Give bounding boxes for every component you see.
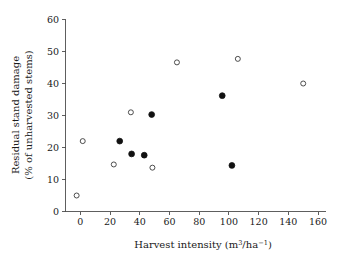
y-tick-label: 20 xyxy=(47,142,59,153)
data-point-open xyxy=(301,81,306,86)
x-axis-title-mid: /ha xyxy=(242,239,258,250)
data-point-filled xyxy=(141,152,147,158)
y-axis-title-line2: (% of unharvested stems) xyxy=(23,50,34,179)
data-point-filled xyxy=(129,151,135,157)
y-tick-label: 60 xyxy=(47,14,59,25)
x-tick-label: 140 xyxy=(279,216,297,227)
y-axis-ticks: 0102030405060 xyxy=(47,14,66,217)
x-tick-label: 80 xyxy=(193,216,205,227)
data-point-filled xyxy=(149,112,155,118)
x-tick-label: 0 xyxy=(77,216,83,227)
y-tick-label: 10 xyxy=(47,174,59,185)
y-tick-label: 40 xyxy=(47,78,59,89)
x-tick-label: 120 xyxy=(250,216,268,227)
data-point-filled xyxy=(229,163,235,169)
x-tick-label: 40 xyxy=(134,216,146,227)
y-tick-label: 50 xyxy=(47,46,59,57)
x-tick-label: 60 xyxy=(163,216,175,227)
data-point-filled xyxy=(117,138,123,144)
x-axis-title-suffix: ) xyxy=(268,239,272,250)
y-tick-label: 30 xyxy=(47,110,59,121)
data-point-open xyxy=(128,110,133,115)
data-point-open xyxy=(74,193,79,198)
data-points xyxy=(74,56,306,198)
axes xyxy=(66,20,326,212)
x-axis-ticks: 020406080100120140160 xyxy=(77,212,327,228)
x-axis-title-sup-minus-one: −1 xyxy=(258,239,268,247)
x-tick-label: 160 xyxy=(309,216,327,227)
x-axis-title: Harvest intensity (m3/ha−1) xyxy=(134,239,272,250)
data-point-open xyxy=(150,165,155,170)
data-point-open xyxy=(80,139,85,144)
y-axis-title-line1: Residual stand damage xyxy=(10,56,21,174)
data-point-open xyxy=(174,60,179,65)
plot-canvas: 0102030405060 020406080100120140160 Harv… xyxy=(0,0,340,261)
data-point-open xyxy=(235,56,240,61)
x-axis-title-prefix: Harvest intensity (m xyxy=(134,239,238,250)
x-tick-label: 20 xyxy=(104,216,116,227)
x-tick-label: 100 xyxy=(220,216,238,227)
data-point-open xyxy=(111,162,116,167)
y-tick-label: 0 xyxy=(53,206,59,217)
data-point-filled xyxy=(219,93,225,99)
scatter-plot-figure: 0102030405060 020406080100120140160 Harv… xyxy=(0,0,340,261)
